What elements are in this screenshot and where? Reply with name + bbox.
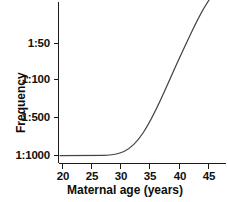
x-tick-label-25: 25: [86, 170, 98, 182]
y-tick-label-1-100: 1:100: [4, 73, 50, 85]
y-tick-label-1-1000: 1:1000: [4, 149, 50, 161]
x-tick-label-30: 30: [115, 170, 127, 182]
y-tick-label-1-50: 1:50: [4, 37, 50, 49]
x-tick-label-40: 40: [174, 170, 186, 182]
x-tick-label-45: 45: [203, 170, 215, 182]
x-axis-title: Maternal age (years): [0, 183, 228, 197]
x-tick-label-35: 35: [144, 170, 156, 182]
incidence-curve: [60, 0, 209, 156]
x-axis-ticks: [63, 164, 209, 169]
y-axis-ticks: [54, 44, 59, 156]
chart-figure: Frequency 1:50 1:100 1:500 1:1000 20 25 …: [0, 0, 228, 202]
y-tick-label-1-500: 1:500: [4, 111, 50, 123]
x-tick-label-20: 20: [57, 170, 69, 182]
